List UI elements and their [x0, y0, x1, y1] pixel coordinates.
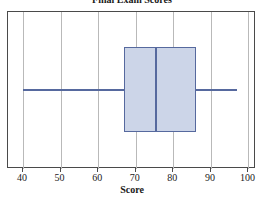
tick-label-40: 40 [7, 172, 37, 183]
median-line [155, 47, 157, 132]
tick-label-60: 60 [82, 172, 112, 183]
plot-area [7, 11, 255, 168]
gridline-60 [98, 12, 99, 169]
tick-label-50: 50 [45, 172, 75, 183]
gridline-100 [248, 12, 249, 169]
box-plot-chart: Final Exam Scores 405060708090100 Score [0, 0, 264, 201]
whisker-lower [23, 89, 124, 91]
whisker-upper [196, 89, 237, 91]
x-axis-label: Score [0, 184, 264, 195]
box-iqr [124, 47, 195, 132]
tick-label-70: 70 [120, 172, 150, 183]
chart-title: Final Exam Scores [0, 0, 264, 5]
tick-label-100: 100 [232, 172, 262, 183]
gridline-50 [61, 12, 62, 169]
tick-label-90: 90 [195, 172, 225, 183]
gridline-90 [211, 12, 212, 169]
gridline-40 [23, 12, 24, 169]
tick-label-80: 80 [157, 172, 187, 183]
